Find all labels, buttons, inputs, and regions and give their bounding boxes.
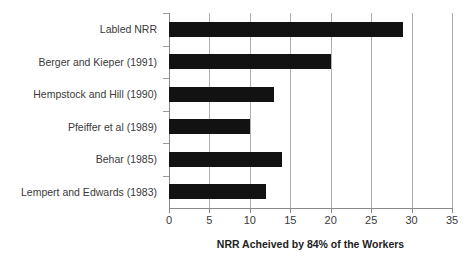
x-tick-label: 15 [284,214,296,226]
x-tick-label: 30 [405,214,417,226]
bar-row [169,143,452,176]
bar-row [169,111,452,144]
bar [169,184,266,199]
bar-chart: Labled NRRBerger and Kieper (1991)Hempst… [0,0,474,263]
y-axis-label-text: Labled NRR [100,23,157,35]
x-tick-mark [250,208,251,213]
y-axis-label-text: Behar (1985) [96,153,157,165]
x-axis-tick-labels: 05101520253035 [169,214,452,230]
x-tick-mark [412,208,413,213]
x-tick-mark [331,208,332,213]
y-axis-line [169,13,170,209]
bar [169,119,250,134]
x-tick-mark [371,208,372,213]
y-axis-label: Behar (1985) [0,143,163,176]
x-tick-label: 5 [206,214,212,226]
x-tick-mark [290,208,291,213]
x-axis-title: NRR Acheived by 84% of the Workers [169,238,452,250]
y-axis-label-text: Lempert and Edwards (1983) [21,186,157,198]
bar-series [169,13,452,208]
bar [169,87,274,102]
gridline [452,13,453,208]
bar [169,54,331,69]
y-axis-label: Labled NRR [0,13,163,46]
y-axis-label-text: Pfeiffer et al (1989) [68,121,157,133]
plot-area [169,13,452,208]
bar-row [169,78,452,111]
y-axis-label-text: Berger and Kieper (1991) [39,56,158,68]
bar-row [169,176,452,209]
bar-row [169,46,452,79]
y-axis-label-text: Hempstock and Hill (1990) [33,88,157,100]
bar [169,152,282,167]
x-tick-label: 25 [365,214,377,226]
x-axis-tick-marks [169,208,452,213]
x-tick-mark [209,208,210,213]
x-tick-label: 35 [446,214,458,226]
bar-row [169,13,452,46]
x-tick-mark [169,208,170,213]
y-axis-label: Berger and Kieper (1991) [0,46,163,79]
x-tick-mark [452,208,453,213]
y-axis-category-labels: Labled NRRBerger and Kieper (1991)Hempst… [0,13,163,208]
x-tick-label: 10 [244,214,256,226]
y-axis-label: Hempstock and Hill (1990) [0,78,163,111]
x-tick-label: 0 [166,214,172,226]
bar [169,22,403,37]
y-axis-label: Lempert and Edwards (1983) [0,176,163,209]
y-axis-label: Pfeiffer et al (1989) [0,111,163,144]
x-tick-label: 20 [325,214,337,226]
